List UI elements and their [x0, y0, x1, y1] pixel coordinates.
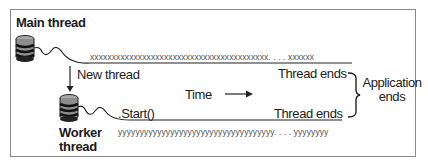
main-thread-spool-icon	[16, 36, 34, 63]
main-thread-title: Main thread	[16, 15, 86, 30]
new-thread-label: New thread	[77, 67, 139, 82]
time-label: Time	[185, 87, 212, 102]
worker-thread-sequence: yyyyyyyyyyyyyyyyyyyyyyyyyyyyyyyyyyyy. . …	[118, 127, 328, 137]
application-ends-brace	[348, 73, 360, 117]
main-thread-sequence: xxxxxxxxxxxxxxxxxxxxxxxxxxxxxxxxxxxxxxxx…	[90, 52, 314, 62]
worker-thread-end-label: Thread ends	[274, 106, 343, 121]
main-thread-end-label: Thread ends	[278, 66, 347, 81]
application-ends-line1: Application	[362, 76, 422, 90]
worker-thread-title-line2: thread	[59, 140, 102, 154]
time-arrow-icon	[225, 91, 253, 98]
new-thread-arrow	[67, 66, 74, 92]
application-ends-line2: ends	[362, 90, 422, 104]
application-ends-label: Application ends	[362, 76, 422, 104]
worker-thread-spool-icon	[60, 95, 78, 123]
worker-thread-title: Worker thread	[59, 126, 102, 154]
worker-thread-title-line1: Worker	[59, 126, 102, 140]
worker-start-label: .Start()	[118, 106, 155, 121]
